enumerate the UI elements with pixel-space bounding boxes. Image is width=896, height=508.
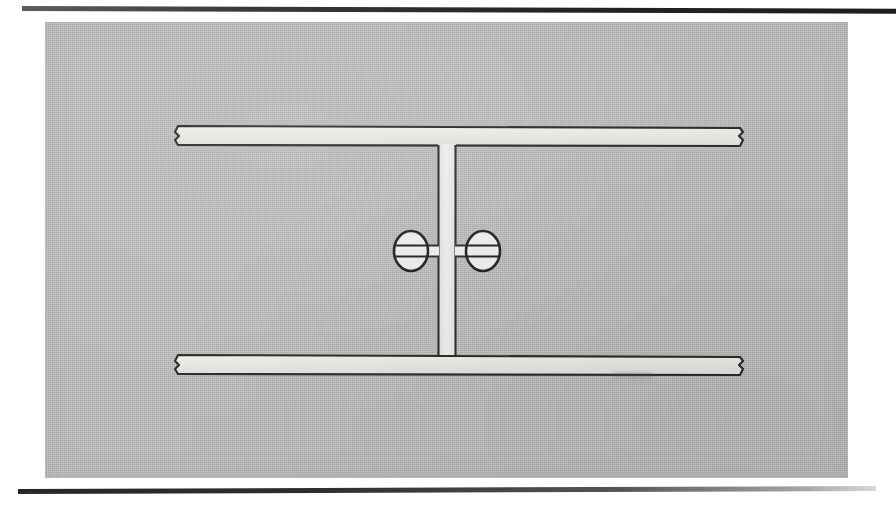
bottom-rule [18, 486, 876, 494]
weld-symbol-right[interactable] [455, 231, 500, 271]
weld-symbol-left-circle [394, 231, 428, 271]
i-beam-drawing [45, 22, 848, 478]
page-root [0, 0, 896, 508]
top-flange [175, 126, 743, 146]
bottom-flange-outline [175, 355, 743, 375]
web-body [438, 144, 456, 357]
weld-symbol-right-circle [466, 231, 500, 271]
bottom-flange [175, 355, 743, 375]
web [438, 144, 456, 357]
weld-symbol-left[interactable] [394, 231, 439, 271]
top-rule [22, 6, 896, 14]
top-flange-outline [175, 126, 743, 146]
drawing-panel [45, 22, 848, 478]
